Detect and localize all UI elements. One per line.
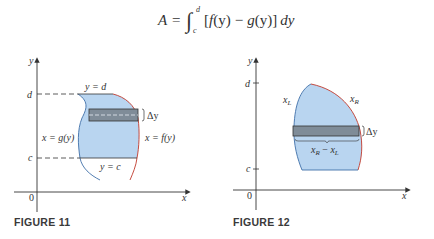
figure-12-caption: FIGURE 12	[233, 216, 290, 228]
delta-y-bracket-12	[362, 126, 364, 136]
integrand: [f(y)−g(y)]dy	[204, 12, 295, 29]
y-axis-label: y	[28, 55, 34, 66]
delta-y-label: Δy	[147, 110, 158, 121]
label-x-equals-g-y: x = g(y)	[41, 132, 75, 144]
delta-y-bracket	[142, 109, 144, 121]
integral-upper-limit: d	[196, 5, 201, 14]
figure-11-caption: FIGURE 11	[14, 216, 70, 228]
origin-label-12: 0	[247, 190, 252, 201]
integral-lower-limit: c	[193, 26, 197, 35]
tick-label-d: d	[27, 89, 33, 100]
x-axis-label-12: x	[401, 190, 407, 201]
figure-canvas: A = ∫ d c [f(y)−g(y)]dy Δy y x 0 d	[0, 0, 434, 239]
label-x-right: xR	[349, 93, 359, 106]
tick-label-d-12: d	[245, 78, 251, 89]
tick-label-c-12: c	[246, 163, 251, 174]
x-axis-label: x	[181, 192, 187, 203]
tick-label-c: c	[28, 152, 33, 163]
strip-rectangle-12	[293, 126, 359, 136]
figure-11: Δy y x 0 d c y = d y = c x = g(y) x = f(…	[14, 55, 188, 228]
formula-lhs: A	[157, 12, 168, 28]
area-formula: A = ∫ d c [f(y)−g(y)]dy	[157, 5, 295, 35]
label-x-left: xL	[282, 94, 291, 107]
y-axis-label-12: y	[247, 55, 253, 66]
formula-equals: =	[172, 12, 180, 28]
figure-12: Δy xL xR xR − xL y x 0 d c FIGURE 12	[233, 55, 408, 228]
label-x-equals-f-y: x = f(y)	[144, 132, 176, 144]
label-y-equals-c: y = c	[99, 161, 121, 172]
origin-label: 0	[29, 192, 34, 203]
region-between-curves	[78, 94, 139, 158]
delta-y-label-12: Δy	[366, 126, 377, 137]
label-y-equals-d: y = d	[84, 81, 107, 92]
